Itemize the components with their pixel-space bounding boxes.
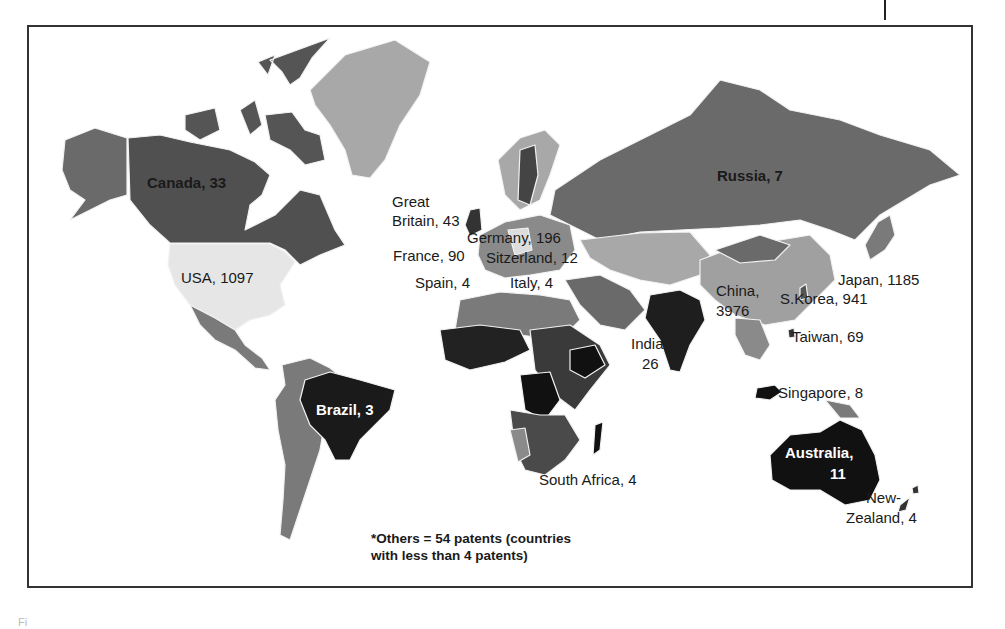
label-new-zealand-2: Zealand, 4 (846, 508, 917, 527)
label-taiwan: Taiwan, 69 (792, 327, 864, 346)
label-germany: Germany, 196 (467, 228, 561, 247)
usa-region (168, 244, 295, 330)
label-brazil: Brazil, 3 (316, 400, 374, 419)
africa-west-region (440, 325, 530, 370)
label-italy: Italy, 4 (510, 273, 553, 292)
label-south-africa: South Africa, 4 (539, 470, 637, 489)
papua-region (825, 400, 860, 418)
label-great-britain-1: Great (392, 192, 430, 211)
label-south-korea: S.Korea, 941 (780, 289, 868, 308)
label-australia-2: 11 (830, 464, 846, 483)
greenland-region (310, 40, 430, 178)
others-footnote: *Others = 54 patents (countries with les… (371, 530, 571, 564)
russia-region (550, 80, 960, 240)
label-australia-1: Australia, (785, 443, 853, 462)
label-india-1: India (631, 334, 664, 353)
label-japan: Japan, 1185 (838, 270, 919, 289)
madagascar-region (593, 422, 603, 455)
figure-caption-fragment: Fi (18, 616, 27, 628)
alaska-region (62, 128, 127, 220)
label-singapore: Singapore, 8 (778, 383, 863, 402)
label-canada: Canada, 33 (147, 173, 226, 192)
label-usa: USA, 1097 (181, 268, 254, 287)
label-china-2: 3976 (716, 301, 749, 320)
label-china-1: China, (716, 281, 759, 300)
others-footnote-line2: with less than 4 patents) (371, 547, 571, 564)
australia-region (770, 420, 880, 505)
label-switzerland: Sitzerland, 12 (486, 248, 578, 267)
label-spain: Spain, 4 (415, 273, 470, 292)
label-russia: Russia, 7 (717, 166, 783, 185)
label-india-2: 26 (642, 354, 659, 373)
others-footnote-line1: *Others = 54 patents (countries (371, 530, 571, 547)
label-great-britain-2: Britain, 43 (392, 211, 460, 230)
label-new-zealand-1: New- (866, 488, 901, 507)
label-france: France, 90 (393, 246, 465, 265)
